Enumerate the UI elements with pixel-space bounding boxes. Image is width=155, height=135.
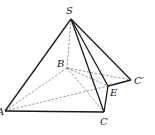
edge-E-Cp bbox=[108, 80, 131, 86]
edge-B-C bbox=[67, 68, 104, 112]
edge-A-C bbox=[5, 111, 104, 112]
edge-S-E bbox=[71, 19, 108, 86]
label-C: C bbox=[100, 116, 108, 127]
edge-S-Cp bbox=[71, 19, 131, 80]
edge-B-E bbox=[67, 68, 108, 86]
edge-C-E bbox=[104, 86, 108, 112]
label-S: S bbox=[66, 5, 73, 16]
label-C-prime: C′ bbox=[134, 75, 145, 86]
dashed-edges bbox=[5, 19, 131, 112]
edge-S-B bbox=[67, 19, 71, 68]
label-A: A bbox=[0, 106, 4, 117]
edge-S-C bbox=[71, 19, 104, 112]
label-E: E bbox=[109, 87, 118, 98]
label-B: B bbox=[56, 58, 64, 69]
pyramid-diagram: S B A C E C′ bbox=[0, 0, 155, 135]
edge-B-A bbox=[5, 68, 67, 111]
